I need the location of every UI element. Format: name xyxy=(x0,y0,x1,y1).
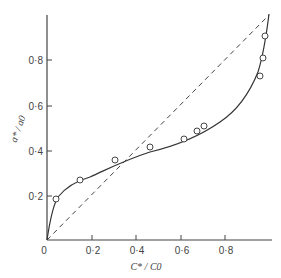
diagonal-line xyxy=(47,15,269,240)
y-axis-title: a* / a0 xyxy=(8,114,28,144)
data-points xyxy=(53,33,268,202)
data-point xyxy=(194,128,200,134)
y-tick-label: 0·6 xyxy=(29,101,44,112)
data-point xyxy=(112,157,118,163)
data-point xyxy=(201,123,207,129)
x-tick-label: 0·2 xyxy=(86,245,101,256)
y-tick-label: 0·8 xyxy=(29,55,44,66)
data-point xyxy=(53,196,59,202)
data-point xyxy=(260,55,266,61)
x-axis-title: C* / C0 xyxy=(130,261,161,272)
x-tick-label: 0·4 xyxy=(130,245,145,256)
data-point xyxy=(181,136,187,142)
x-tick-label: 0·6 xyxy=(175,245,190,256)
x-tick-label: 0 xyxy=(41,245,47,256)
data-point xyxy=(257,73,263,79)
data-point xyxy=(147,144,153,150)
data-point xyxy=(262,33,268,39)
y-tick-label: 0·2 xyxy=(29,191,44,202)
y-tick-label: 0·4 xyxy=(29,146,44,157)
chart: 0·2 0·4 0·6 0·8 0 0·2 0·4 0·6 0·8 C* / C… xyxy=(0,0,281,278)
data-point xyxy=(77,177,83,183)
x-tick-label: 0·8 xyxy=(219,245,234,256)
